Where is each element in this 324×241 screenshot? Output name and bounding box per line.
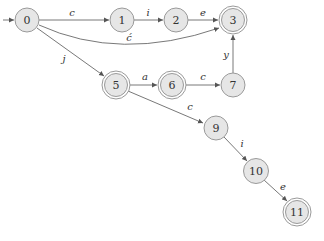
state-label: 5: [113, 79, 120, 92]
state-label: 3: [230, 14, 237, 27]
state-1: 1: [110, 8, 134, 32]
edge-label-7-3: y: [222, 49, 229, 60]
state-label: 7: [230, 79, 237, 92]
state-11-accepting: 11: [283, 198, 311, 226]
state-6-accepting: 6: [158, 71, 186, 99]
automaton-diagram: c i e ć j a c y c i e 0 1 2 3 5 6: [0, 0, 324, 241]
edge-label-0-5: j: [60, 53, 65, 64]
edge-0-5: [37, 28, 104, 76]
state-label: 11: [290, 206, 304, 219]
state-label: 1: [119, 14, 126, 27]
state-7: 7: [221, 73, 245, 97]
state-2: 2: [164, 8, 188, 32]
state-9: 9: [204, 116, 228, 140]
edge-label-2-3: e: [200, 7, 206, 18]
edge-label-1-2: i: [146, 7, 149, 18]
state-label: 10: [249, 165, 263, 178]
edge-label-0-1: c: [69, 7, 75, 18]
state-5-accepting: 5: [102, 71, 130, 99]
edge-label-10-11: e: [280, 181, 286, 192]
state-label: 2: [173, 14, 180, 27]
edge-label-5-9: c: [187, 101, 193, 112]
state-10: 10: [244, 159, 269, 184]
state-label: 9: [213, 122, 220, 135]
edge-label-5-6: a: [142, 71, 148, 82]
edge-label-9-10: i: [240, 138, 243, 149]
state-3-accepting: 3: [219, 6, 247, 34]
edge-label-6-7: c: [200, 71, 206, 82]
state-0: 0: [15, 8, 39, 32]
state-label: 6: [169, 79, 176, 92]
state-label: 0: [24, 14, 31, 27]
edge-label-0-3: ć: [126, 32, 132, 43]
